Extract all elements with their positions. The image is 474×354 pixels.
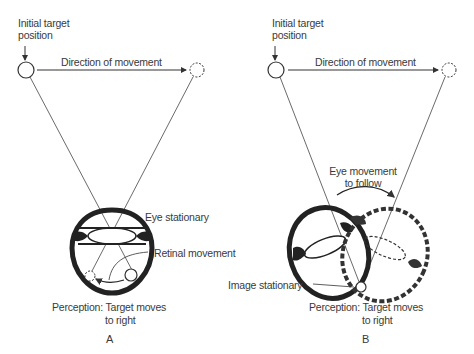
final-target-circle <box>442 63 456 77</box>
perception-label-b: Perception: Target moves <box>309 301 423 313</box>
initial-target-circle <box>268 62 284 78</box>
image-stationary-label: Image stationary <box>228 279 302 291</box>
label-line: position <box>18 29 69 41</box>
label-line: to follow <box>328 177 398 189</box>
perception-label-b-line2: to right <box>362 314 393 326</box>
initial-target-label-b: Initial target position <box>272 17 323 41</box>
label-line: Eye movement <box>328 165 398 177</box>
final-target-circle <box>190 63 204 77</box>
perception-label-a: Perception: Target moves <box>52 301 166 313</box>
direction-label-b: Direction of movement <box>315 56 416 68</box>
eye-movement-label: Eye movement to follow <box>328 165 398 189</box>
retinal-movement-label: Retinal movement <box>154 247 235 259</box>
eye-b-initial-icon <box>278 197 381 309</box>
label-line: Initial target <box>272 17 323 29</box>
eye-a-icon <box>72 210 152 293</box>
label-line: Initial target <box>18 17 69 29</box>
initial-target-circle <box>18 62 34 78</box>
label-line: position <box>272 29 323 41</box>
eye-stationary-label: Eye stationary <box>145 211 209 223</box>
perception-label-a-line2: to right <box>105 314 136 326</box>
retinal-image-icon <box>356 282 366 292</box>
panel-letter-b: B <box>362 333 369 345</box>
direction-label-a: Direction of movement <box>61 56 162 68</box>
panel-letter-a: A <box>106 333 113 345</box>
initial-target-label-a: Initial target position <box>18 17 69 41</box>
